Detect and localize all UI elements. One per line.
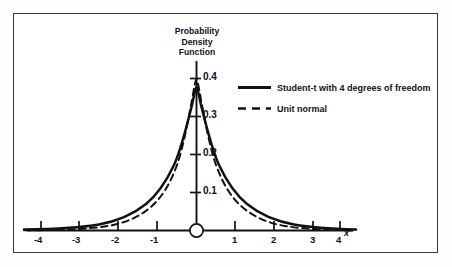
figure-canvas: Probability Density Function	[0, 0, 452, 267]
x-tick-label-1: 1	[232, 234, 237, 245]
x-tick-label-2: 2	[271, 234, 276, 245]
plot-area	[0, 0, 452, 267]
y-tick-label-0-1: 0.1	[203, 185, 217, 196]
y-tick-label-0-2: 0.2	[203, 147, 217, 158]
x-tick-label-3: 3	[310, 234, 315, 245]
x-tick-label-minus-4: -4	[34, 234, 42, 245]
legend-label-student-t: Student-t with 4 degrees of freedom	[277, 83, 431, 93]
x-tick-label-minus-2: -2	[111, 234, 119, 245]
legend-label-unit-normal: Unit normal	[277, 104, 327, 114]
y-tick-label-0-4: 0.4	[203, 71, 217, 82]
legend-swatches	[238, 88, 271, 109]
x-axis-label: x	[344, 228, 349, 238]
x-tick-label-4: 4	[336, 234, 341, 245]
origin-circle-icon	[190, 224, 203, 237]
x-tick-label-minus-1: -1	[150, 234, 158, 245]
y-tick-label-0-3: 0.3	[203, 109, 217, 120]
x-tick-label-minus-3: -3	[72, 234, 80, 245]
